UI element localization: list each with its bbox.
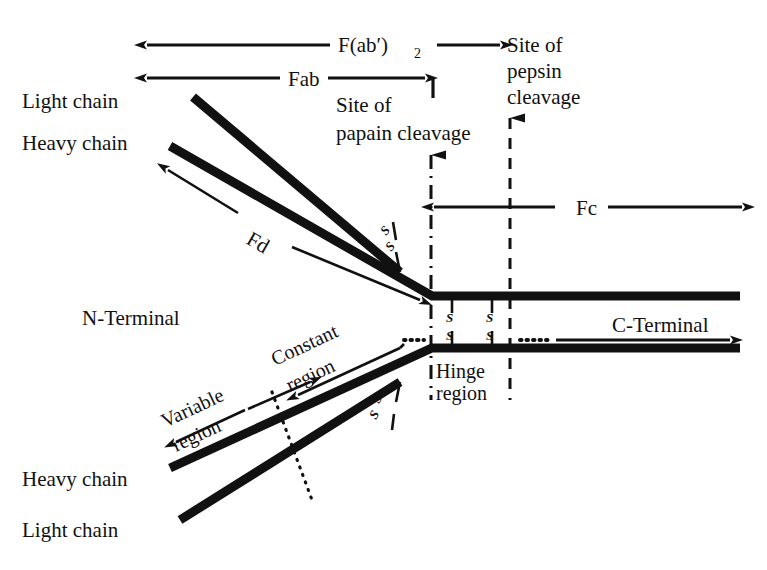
label-pepsin-line2: pepsin (507, 59, 562, 83)
label-light-chain-top: Light chain (22, 89, 119, 113)
svg-text:S: S (366, 408, 383, 422)
label-pepsin-line1: Site of (507, 33, 562, 57)
label-papain-line1: Site of (336, 93, 391, 117)
label-heavy-chain-bottom: Heavy chain (22, 467, 128, 491)
label-c-terminal: C-Terminal (612, 313, 709, 337)
label-fc: Fc (576, 196, 597, 220)
label-constant-region: Constant region (267, 319, 341, 396)
hinge-region-line2: region (436, 382, 487, 405)
svg-text:S: S (486, 328, 493, 343)
immunoglobulin-diagram: S S S S (0, 0, 767, 570)
svg-text:S: S (446, 310, 453, 325)
disulfide-hinge-2: S S (486, 296, 493, 348)
label-heavy-chain-top: Heavy chain (22, 131, 128, 155)
figure-canvas: S S S S (0, 0, 767, 570)
label-fab2: F(ab′) 2 (338, 33, 421, 61)
hinge-region-line1: Hinge (436, 360, 485, 383)
chain-heavy-upper (170, 146, 740, 296)
label-hinge-region: Hinge region (436, 360, 487, 405)
svg-text:S: S (382, 239, 398, 254)
label-pepsin-line3: cleavage (507, 85, 580, 109)
span-arrow-fd (168, 170, 420, 300)
fab2-subscript: 2 (414, 46, 421, 61)
disulfide-hinge-1: S S (446, 296, 453, 348)
label-fab: Fab (288, 67, 320, 91)
fab2-text: F(ab′) (338, 33, 388, 57)
svg-text:S: S (377, 223, 393, 238)
svg-text:S: S (486, 310, 493, 325)
label-papain-line2: papain cleavage (336, 121, 471, 145)
label-light-chain-bottom: Light chain (22, 518, 119, 542)
label-fd: Fd (243, 227, 275, 259)
svg-text:S: S (446, 328, 453, 343)
label-n-terminal: N-Terminal (82, 306, 180, 330)
